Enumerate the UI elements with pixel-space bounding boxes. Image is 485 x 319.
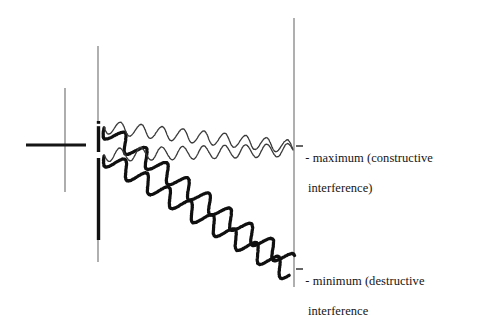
maximum-label-line1: - maximum (constructive: [305, 151, 433, 165]
maximum-label-line2: interference): [299, 181, 433, 196]
maximum-label-text: maximum (constructive: [310, 151, 433, 165]
minimum-label-text: minimum (destructive: [310, 274, 425, 288]
minimum-label: - minimum (destructive interference: [299, 259, 425, 319]
minimum-label-line2: interference: [299, 304, 425, 319]
maximum-label: - maximum (constructive interference): [299, 136, 433, 211]
minimum-label-line1: - minimum (destructive: [305, 274, 424, 288]
